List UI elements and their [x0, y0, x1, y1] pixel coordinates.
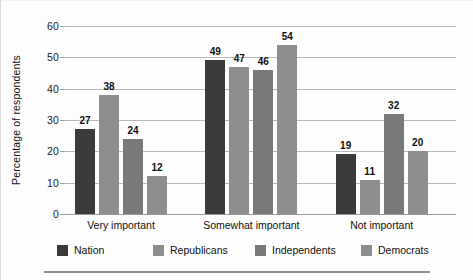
bar-value-label: 27 — [79, 115, 90, 126]
y-axis-tick-label: 10 — [1, 177, 59, 189]
bar: 19 — [336, 154, 356, 214]
x-axis-category-label: Not important — [350, 219, 413, 231]
legend-item[interactable]: Independents — [255, 244, 336, 256]
bar-value-label: 38 — [103, 81, 114, 92]
bar-value-label: 11 — [364, 166, 375, 177]
bar: 47 — [229, 67, 249, 214]
bar-value-label: 24 — [127, 125, 138, 136]
legend-item[interactable]: Nation — [57, 244, 104, 256]
bar: 20 — [408, 151, 428, 214]
legend-color-swatch — [57, 245, 68, 256]
bar: 11 — [360, 180, 380, 214]
bar-value-label: 32 — [388, 100, 399, 111]
bar: 32 — [384, 114, 404, 214]
y-axis-tick-label: 50 — [1, 51, 59, 63]
bar-value-label: 47 — [234, 53, 245, 64]
legend-color-swatch — [361, 245, 372, 256]
legend-item[interactable]: Republicans — [153, 244, 228, 256]
bar-value-label: 19 — [340, 140, 351, 151]
bar-value-label: 46 — [258, 56, 269, 67]
chart-legend: NationRepublicansIndependentsDemocrats — [57, 244, 457, 257]
gridline — [65, 26, 456, 27]
bar: 54 — [277, 45, 297, 214]
bar-value-label: 20 — [412, 137, 423, 148]
bar-value-label: 49 — [210, 46, 221, 57]
legend-label: Nation — [74, 244, 104, 256]
bar-value-label: 54 — [282, 31, 293, 42]
x-axis-category-label: Very important — [87, 219, 155, 231]
bar: 12 — [147, 176, 167, 214]
x-axis-category-label: Somewhat important — [203, 219, 299, 231]
y-axis-tick-label: 60 — [1, 20, 59, 32]
legend-label: Independents — [272, 244, 336, 256]
gridline — [65, 214, 456, 215]
y-axis-tick-label: 30 — [1, 114, 59, 126]
bar: 46 — [253, 70, 273, 214]
legend-label: Democrats — [378, 244, 429, 256]
legend-color-swatch — [153, 245, 164, 256]
bar-value-label: 12 — [151, 162, 162, 173]
y-axis-tick-label: 0 — [1, 208, 59, 220]
bar: 38 — [99, 95, 119, 214]
chart-figure: Percentage of respondents 0102030405060 … — [0, 0, 473, 280]
bar: 49 — [205, 60, 225, 214]
plot-area: 273824124947465419113220 — [65, 26, 456, 214]
y-axis-tick-label: 40 — [1, 83, 59, 95]
legend-item[interactable]: Democrats — [361, 244, 429, 256]
legend-label: Republicans — [170, 244, 228, 256]
bar: 24 — [123, 139, 143, 214]
legend-color-swatch — [255, 245, 266, 256]
y-axis-tick-label: 20 — [1, 145, 59, 157]
footer-divider — [44, 271, 430, 273]
bar: 27 — [75, 129, 95, 214]
